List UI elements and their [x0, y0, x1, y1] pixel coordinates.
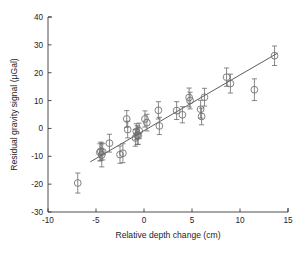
- scatter-plot: -30-20-10010203040-10-5051015Relative de…: [0, 0, 306, 255]
- x-tick-label: 5: [190, 216, 195, 225]
- error-bar: [156, 102, 161, 119]
- axes: [48, 17, 288, 212]
- error-bar: [75, 173, 80, 193]
- y-tick-label: -10: [31, 152, 43, 161]
- y-tick-label: 40: [34, 13, 44, 22]
- error-bar: [125, 121, 130, 138]
- error-bar: [198, 100, 203, 118]
- error-bar: [228, 74, 233, 93]
- y-tick-label: 30: [34, 41, 44, 50]
- x-tick-label: -10: [42, 216, 54, 225]
- y-tick-label: 20: [34, 69, 44, 78]
- fit-line: [90, 53, 277, 162]
- error-bar: [124, 111, 129, 128]
- regression-line: [90, 53, 277, 162]
- error-bar: [202, 88, 207, 106]
- y-tick-label: 0: [38, 124, 43, 133]
- y-tick-label: -20: [31, 180, 43, 189]
- error-bar: [252, 79, 257, 101]
- x-tick-label: -5: [92, 216, 100, 225]
- error-bar: [157, 117, 162, 134]
- x-tick-label: 10: [235, 216, 245, 225]
- y-axis-title: Residual gravity signal (μGal): [9, 58, 19, 171]
- x-tick-label: 15: [283, 216, 293, 225]
- x-tick-label: 0: [142, 216, 147, 225]
- y-tick-label: 10: [34, 97, 44, 106]
- error-bars: [75, 46, 277, 193]
- figure-container: -30-20-10010203040-10-5051015Relative de…: [0, 0, 306, 255]
- x-axis-title: Relative depth change (cm): [115, 230, 220, 240]
